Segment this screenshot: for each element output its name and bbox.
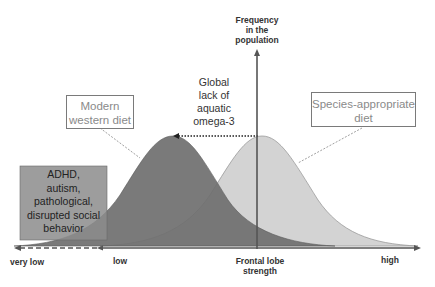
pathology-label-line: ADHD, [20,168,107,182]
x-axis-label-line: strength [230,266,290,276]
species-diet-label-line: diet [312,111,415,125]
pathology-label: ADHD, autism, pathological, disrupted so… [20,168,107,236]
y-axis-label-line: population [225,35,289,45]
shift-annotation-line: lack of [192,89,236,102]
pathology-label-line: behavior [20,222,107,236]
modern-diet-label-line: western diet [67,113,133,127]
species-leader-line [298,128,362,163]
modern-diet-box: Modern western diet [66,95,134,129]
shift-annotation-line: aquatic [192,102,236,115]
species-diet-box: Species-appropriate diet [311,92,416,127]
modern-leader-line [100,128,140,158]
pathology-label-line: autism, [20,182,107,196]
diagram-canvas [0,0,435,287]
pathology-label-line: disrupted social [20,209,107,223]
x-axis-label-line: Frontal lobe [230,256,290,266]
pathology-label-line: pathological, [20,195,107,209]
y-axis-label-line: Frequency [225,15,289,25]
shift-annotation-line: Global [192,76,236,89]
shift-annotation-line: omega-3 [192,115,236,128]
y-axis-label: Frequency in the population [225,15,289,45]
y-axis-label-line: in the [225,25,289,35]
shift-annotation: Global lack of aquatic omega-3 [192,76,236,128]
y-axis-arrowhead-up-icon [254,49,260,56]
x-tick-low: low [108,256,132,266]
x-tick-very-low: very low [10,257,50,267]
species-diet-label-line: Species-appropriate [312,97,415,111]
x-axis-label: Frontal lobe strength [230,256,290,276]
x-tick-high: high [378,255,402,265]
modern-diet-label-line: Modern [67,99,133,113]
